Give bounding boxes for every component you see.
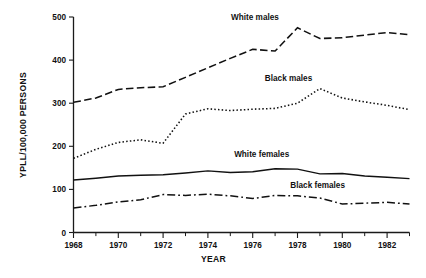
x-tick-label-1976: 1976	[244, 241, 263, 250]
y-tick-label-100: 100	[52, 185, 66, 194]
x-tick-label-1972: 1972	[154, 241, 173, 250]
x-tick-label-1974: 1974	[199, 241, 218, 250]
y-tick-label-500: 500	[52, 13, 66, 22]
series-label-white-males: White males	[231, 13, 279, 22]
ypll-line-chart: 0100200300400500 19681970197219741976197…	[0, 0, 426, 278]
series-line-black-females	[74, 194, 410, 208]
data-series-group	[74, 28, 410, 208]
y-axis-ticks: 0100200300400500	[52, 13, 73, 238]
series-annotations-group: White malesBlack malesWhite femalesBlack…	[231, 13, 345, 189]
y-tick-label-400: 400	[52, 56, 66, 65]
x-tick-label-1978: 1978	[288, 241, 307, 250]
x-axis-ticks: 19681970197219741976197819801982	[64, 233, 409, 251]
x-tick-label-1970: 1970	[109, 241, 128, 250]
series-label-white-females: White females	[234, 150, 290, 159]
y-tick-label-300: 300	[52, 99, 66, 108]
y-axis-title: YPLL/100,000 PERSONS	[18, 72, 28, 178]
y-tick-label-0: 0	[61, 229, 66, 238]
series-line-white-females	[74, 169, 410, 180]
x-tick-label-1982: 1982	[378, 241, 397, 250]
axes-group	[74, 17, 410, 233]
y-tick-label-200: 200	[52, 142, 66, 151]
x-tick-label-1968: 1968	[64, 241, 83, 250]
series-label-black-males: Black males	[265, 74, 313, 83]
x-tick-label-1980: 1980	[333, 241, 352, 250]
series-line-black-males	[74, 89, 410, 159]
chart-canvas: 0100200300400500 19681970197219741976197…	[0, 0, 426, 278]
x-axis-title: YEAR	[201, 254, 227, 264]
series-line-white-males	[74, 28, 410, 103]
series-label-black-females: Black females	[290, 181, 345, 190]
